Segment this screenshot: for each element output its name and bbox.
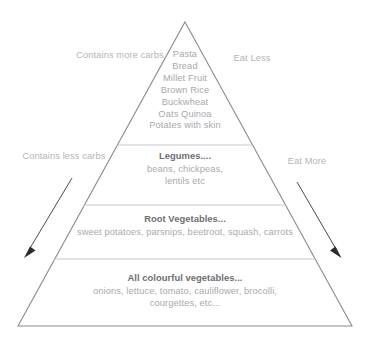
- label-eat-more: Eat More: [276, 155, 338, 167]
- tier-legumes: Legumes.... beans, chickpeas, lentils et…: [100, 150, 270, 188]
- tier-root-vegetables: Root Vegetables... sweet potatoes, parsn…: [45, 213, 325, 239]
- tier-colourful-vegetables-items: onions, lettuce, tomato, cauliflower, br…: [40, 286, 330, 310]
- label-contains-less-carbs: Contains less carbs: [18, 150, 110, 162]
- tier-colourful-vegetables-title: All colourful vegetables...: [40, 272, 330, 284]
- label-contains-more-carbs: Contains more carbs: [74, 49, 166, 61]
- right-arrow-head-icon: [330, 247, 342, 259]
- tier-legumes-title: Legumes....: [100, 150, 270, 162]
- tier-root-vegetables-title: Root Vegetables...: [45, 213, 325, 225]
- tier-colourful-vegetables: All colourful vegetables... onions, lett…: [40, 272, 330, 310]
- tier-legumes-items: beans, chickpeas, lentils etc: [100, 164, 270, 188]
- label-eat-less: Eat Less: [222, 52, 282, 64]
- food-pyramid-diagram: Pasta Bread Millet Fruit Brown Rice Buck…: [0, 0, 370, 347]
- tier-root-vegetables-items: sweet potatoes, parsnips, beetroot, squa…: [45, 227, 325, 239]
- left-arrow-head-icon: [24, 247, 36, 259]
